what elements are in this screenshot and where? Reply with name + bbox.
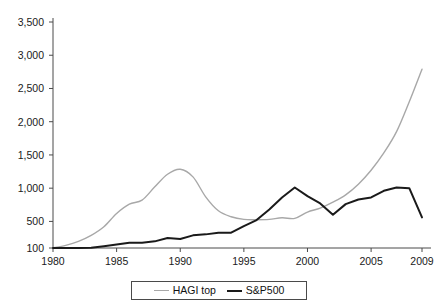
legend-item-sp500: S&P500 xyxy=(227,285,285,296)
data-series-group xyxy=(53,69,422,248)
y-axis-tick-label: 3,500 xyxy=(0,17,44,28)
legend-line-swatch-hagi-top xyxy=(154,290,169,291)
y-axis-tick-label: 2,500 xyxy=(0,83,44,94)
legend-line-swatch-sp500 xyxy=(227,290,242,292)
x-axis-tick-label: 1980 xyxy=(28,256,78,267)
y-axis-tick-label: 100 xyxy=(0,243,44,254)
chart-container: 1005001,0001,5002,0002,5003,0003,500 198… xyxy=(0,0,434,308)
x-axis-ticks xyxy=(53,248,422,252)
y-axis-tick-label: 2,000 xyxy=(0,117,44,128)
series-line-hagi-top xyxy=(53,69,422,248)
legend-label-hagi-top: HAGI top xyxy=(173,285,216,296)
x-axis-tick-label: 2009 xyxy=(397,256,434,267)
x-axis-tick-label: 2005 xyxy=(346,256,396,267)
x-axis-tick-label: 1995 xyxy=(219,256,269,267)
x-axis-tick-label: 2000 xyxy=(282,256,332,267)
chart-legend: HAGI top S&P500 xyxy=(131,281,307,300)
y-axis-tick-label: 1,500 xyxy=(0,150,44,161)
legend-label-sp500: S&P500 xyxy=(246,285,285,296)
x-axis-tick-label: 1985 xyxy=(92,256,142,267)
y-axis-tick-label: 500 xyxy=(0,216,44,227)
y-axis-tick-label: 1,000 xyxy=(0,183,44,194)
axis-lines xyxy=(53,18,431,248)
legend-item-hagi-top: HAGI top xyxy=(154,285,216,296)
y-axis-tick-label: 3,000 xyxy=(0,50,44,61)
x-axis-tick-label: 1990 xyxy=(155,256,205,267)
y-axis-ticks xyxy=(49,22,53,248)
